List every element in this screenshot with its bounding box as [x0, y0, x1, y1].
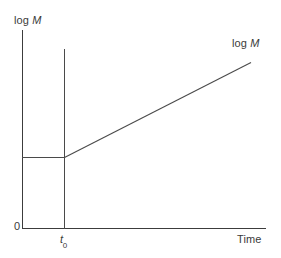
y-axis-label-symbol: M	[32, 14, 41, 26]
t0-subscript: 0	[63, 241, 68, 250]
chart-figure: log M log M 0 t0 Time	[0, 0, 281, 258]
y-axis-label-prefix: log	[14, 14, 32, 26]
curve-label-prefix: log	[232, 37, 250, 49]
y-axis-label: log M	[14, 14, 41, 26]
curve-label-symbol: M	[250, 37, 259, 49]
origin-label: 0	[14, 220, 20, 232]
t0-tick-label: t0	[60, 233, 68, 250]
curve-label: log M	[232, 37, 259, 49]
x-axis-label: Time	[237, 233, 261, 245]
